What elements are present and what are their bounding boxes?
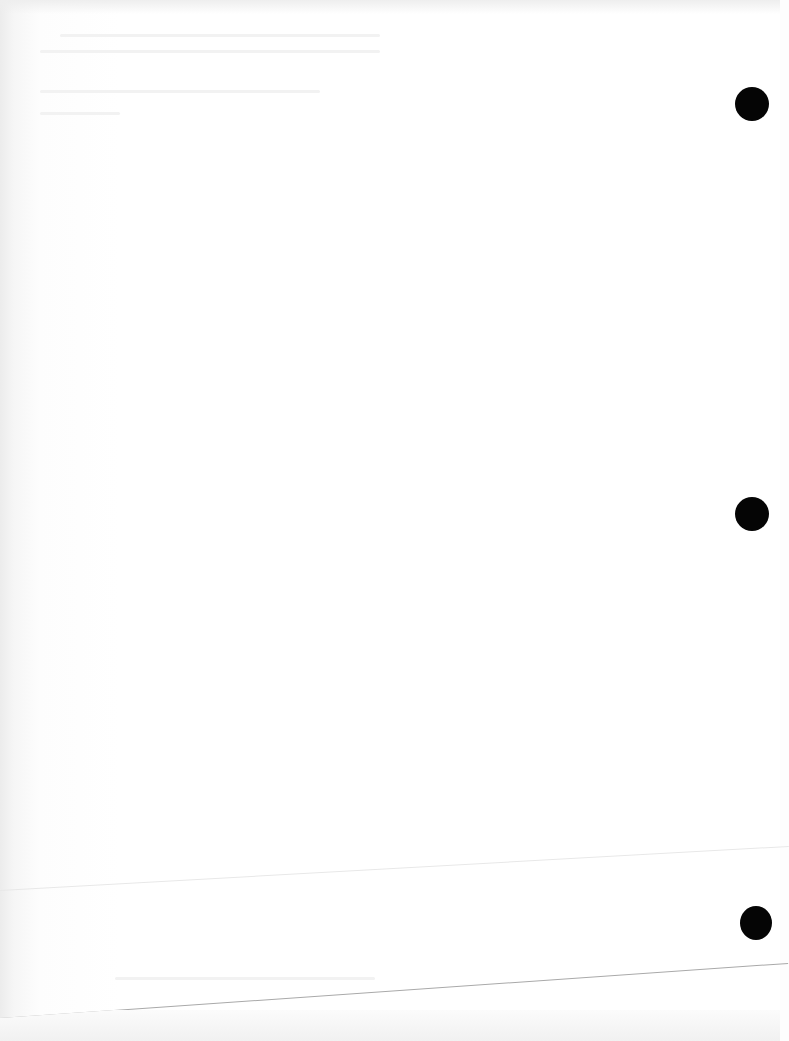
- punch-hole-middle: [735, 497, 769, 531]
- bleed-through-text: [40, 90, 320, 93]
- bleed-through-text: [115, 977, 375, 980]
- fold-line: [0, 846, 789, 891]
- bleed-through-text: [40, 50, 380, 53]
- punch-hole-bottom: [740, 906, 772, 940]
- bleed-through-text: [60, 34, 380, 37]
- bottom-margin: [0, 1010, 780, 1041]
- punch-hole-top: [735, 87, 769, 121]
- top-edge-shadow: [0, 0, 780, 14]
- bleed-through-text: [40, 112, 120, 115]
